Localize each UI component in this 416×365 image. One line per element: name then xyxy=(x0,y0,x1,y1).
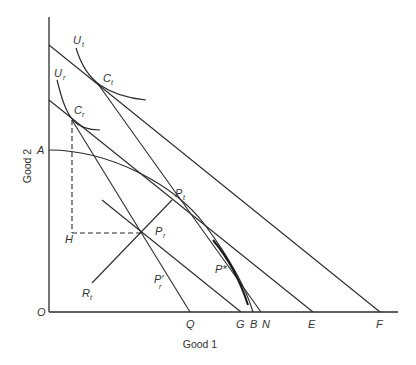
svg-text:r: r xyxy=(163,232,166,239)
label-Q: Q xyxy=(186,318,195,330)
label-Rt: R t xyxy=(82,287,93,301)
label-Cr: C r xyxy=(74,104,85,118)
budget-line-E xyxy=(49,100,313,312)
label-Ur: U r xyxy=(54,67,66,81)
svg-text:C: C xyxy=(103,72,111,84)
svg-text:t: t xyxy=(90,294,93,301)
svg-text:r: r xyxy=(82,111,85,118)
svg-text:t: t xyxy=(82,41,85,48)
label-B: B xyxy=(250,318,257,330)
label-Pstar: P* xyxy=(215,263,227,275)
svg-text:R: R xyxy=(82,287,90,299)
y-axis-label: Good 2 xyxy=(21,149,33,184)
label-F: F xyxy=(376,318,384,330)
ppf-curve-AB xyxy=(49,150,253,312)
label-origin: O xyxy=(37,306,46,318)
label-G: G xyxy=(236,318,245,330)
x-axis-label: Good 1 xyxy=(183,338,218,350)
label-H: H xyxy=(65,233,73,245)
svg-text:t: t xyxy=(111,79,114,86)
label-Pt: P t xyxy=(175,187,186,201)
svg-text:U: U xyxy=(54,67,62,79)
svg-text:P: P xyxy=(175,187,183,199)
line-Rt-Pt xyxy=(92,200,172,283)
indifference-curve-Ut xyxy=(76,48,146,100)
svg-text:r: r xyxy=(63,74,66,81)
price-line-Cr-Q xyxy=(72,120,190,312)
label-N: N xyxy=(262,318,270,330)
label-Ct: C t xyxy=(103,72,114,86)
line-to-G xyxy=(102,200,241,312)
label-E: E xyxy=(308,318,316,330)
label-Pr: P r xyxy=(155,225,166,239)
label-Pr-prime: P' r xyxy=(154,273,164,290)
trade-diagram: Good 1 Good 2 O A Q G B N E F H U t U r … xyxy=(0,0,416,365)
svg-text:U: U xyxy=(73,34,81,46)
label-Ut: U t xyxy=(73,34,85,48)
svg-text:P: P xyxy=(155,225,163,237)
label-A: A xyxy=(36,144,44,156)
svg-text:t: t xyxy=(183,194,186,201)
svg-text:C: C xyxy=(74,104,82,116)
